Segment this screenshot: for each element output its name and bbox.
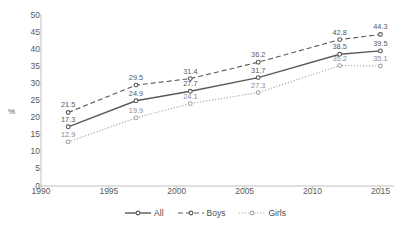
data-label: 17.3	[53, 115, 83, 124]
legend-label: All	[154, 209, 163, 218]
data-label: 35.1	[365, 54, 395, 63]
legend-label: Boys	[207, 209, 226, 218]
data-point-boys	[256, 60, 260, 64]
data-point-girls	[66, 140, 70, 144]
legend-item-all[interactable]: All	[125, 208, 163, 218]
data-point-girls	[134, 116, 138, 120]
data-point-boys	[338, 38, 342, 42]
data-label: 35.2	[325, 54, 355, 63]
data-point-girls	[256, 91, 260, 95]
legend-swatch-girls	[239, 208, 265, 218]
data-label: 36.2	[243, 50, 273, 59]
legend-marker	[136, 211, 140, 215]
legend-marker	[189, 211, 193, 215]
data-label: 27.7	[175, 79, 205, 88]
legend-swatch-boys	[178, 208, 204, 218]
data-label: 27.3	[243, 81, 273, 90]
data-label: 39.5	[365, 39, 395, 48]
data-point-boys	[66, 111, 70, 115]
data-label: 31.4	[175, 67, 205, 76]
data-label: 24.9	[121, 89, 151, 98]
data-label: 29.5	[121, 73, 151, 82]
data-point-girls	[379, 64, 383, 68]
legend-label: Girls	[268, 209, 285, 218]
data-point-boys	[379, 33, 383, 37]
data-point-boys	[134, 83, 138, 87]
legend-marker	[251, 211, 255, 215]
data-label: 42.8	[325, 28, 355, 37]
data-label: 31.7	[243, 66, 273, 75]
data-label: 21.5	[53, 100, 83, 109]
line-chart: % 05101520253035404550 19901995200020052…	[0, 0, 411, 231]
data-label: 38.5	[325, 42, 355, 51]
legend-item-boys[interactable]: Boys	[178, 208, 226, 218]
data-label: 12.9	[53, 130, 83, 139]
chart-legend: AllBoysGirls	[0, 208, 411, 218]
data-point-all	[379, 49, 383, 53]
data-label: 19.9	[121, 106, 151, 115]
data-point-girls	[338, 64, 342, 68]
data-point-all	[66, 125, 70, 129]
data-label: 44.3	[365, 22, 395, 31]
data-label: 24.1	[175, 92, 205, 101]
legend-swatch-all	[125, 208, 151, 218]
data-point-all	[256, 76, 260, 80]
series-line-girls	[68, 66, 380, 142]
data-point-girls	[188, 102, 192, 106]
legend-item-girls[interactable]: Girls	[239, 208, 285, 218]
data-point-all	[134, 99, 138, 103]
